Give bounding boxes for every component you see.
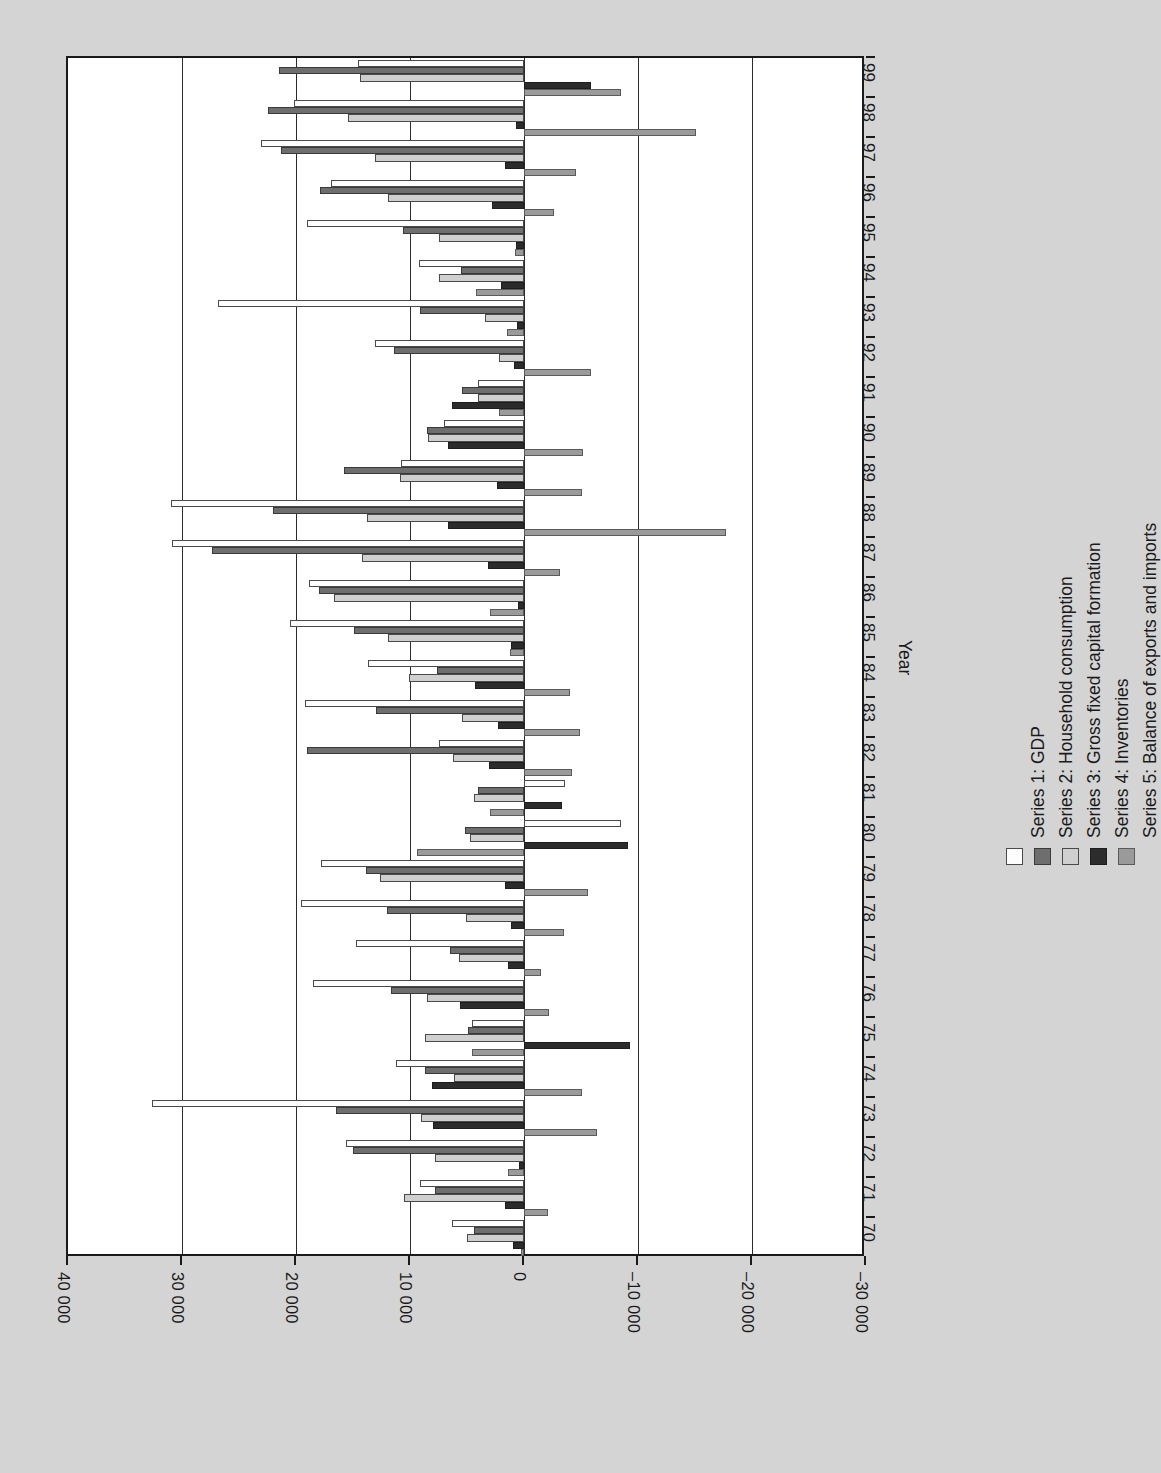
category-tick [866, 456, 875, 458]
bar-5-97 [524, 169, 576, 176]
bar-5-79 [524, 889, 588, 896]
bar-group [68, 1138, 862, 1178]
category-tick-label: 79 [858, 863, 878, 882]
bar-3-77 [459, 954, 524, 961]
bar-group [68, 538, 862, 578]
bar-1-87 [172, 540, 524, 547]
bar-2-88 [273, 507, 524, 514]
bar-3-74 [454, 1074, 524, 1081]
bar-2-77 [450, 947, 524, 954]
bar-4-83 [498, 722, 524, 729]
bar-5-80 [417, 849, 524, 856]
value-tick [750, 1256, 752, 1265]
bar-4-95 [516, 242, 524, 249]
bar-3-72 [435, 1154, 524, 1161]
legend-swatch-icon [1062, 848, 1079, 865]
legend-swatch-icon [1006, 848, 1023, 865]
bar-4-89 [497, 482, 524, 489]
bar-3-86 [334, 594, 524, 601]
category-tick [866, 416, 875, 418]
category-tick [866, 96, 875, 98]
bar-1-77 [356, 940, 524, 947]
legend-label: Series 4: Inventories [1112, 678, 1133, 838]
bar-3-90 [428, 434, 524, 441]
bar-1-84 [368, 660, 524, 667]
bar-4-99 [524, 82, 591, 89]
value-tick [408, 1256, 410, 1265]
bar-3-98 [348, 114, 524, 121]
bar-1-82 [439, 740, 525, 747]
bar-5-98 [524, 129, 696, 136]
category-tick [866, 896, 875, 898]
value-tick-label: 10 000 [396, 1272, 415, 1402]
bar-1-76 [313, 980, 524, 987]
category-tick [866, 576, 875, 578]
bar-5-75 [472, 1049, 524, 1056]
category-tick-label: 83 [858, 703, 878, 722]
bar-2-74 [425, 1067, 524, 1074]
bar-3-83 [462, 714, 524, 721]
category-tick-label: 98 [858, 103, 878, 122]
category-tick [866, 136, 875, 138]
bar-2-71 [435, 1187, 524, 1194]
bar-2-81 [478, 787, 524, 794]
bar-4-81 [524, 802, 562, 809]
bar-3-99 [360, 74, 524, 81]
plot-area [66, 56, 864, 1256]
category-tick [866, 256, 875, 258]
bar-2-97 [281, 147, 524, 154]
bar-4-85 [511, 642, 524, 649]
legend-label: Series 1: GDP [1028, 726, 1049, 838]
bar-4-70 [513, 1242, 524, 1249]
category-tick [866, 56, 875, 58]
bar-1-80 [524, 820, 621, 827]
bar-3-78 [466, 914, 524, 921]
bar-4-94 [501, 282, 524, 289]
bar-1-95 [307, 220, 524, 227]
category-tick-label: 95 [858, 223, 878, 242]
bar-group [68, 298, 862, 338]
value-tick-label: 20 000 [282, 1272, 301, 1402]
bar-3-81 [474, 794, 524, 801]
bar-group [68, 1058, 862, 1098]
bar-5-86 [490, 609, 524, 616]
bar-3-93 [485, 314, 524, 321]
bar-2-96 [320, 187, 524, 194]
bar-group [68, 1218, 862, 1258]
category-tick-label: 74 [858, 1063, 878, 1082]
bar-4-71 [505, 1202, 524, 1209]
bar-2-89 [344, 467, 524, 474]
category-tick [866, 176, 875, 178]
bar-1-88 [171, 500, 524, 507]
category-tick [866, 296, 875, 298]
bar-group [68, 1018, 862, 1058]
bar-2-91 [462, 387, 524, 394]
bar-2-90 [427, 427, 524, 434]
bar-4-75 [524, 1042, 630, 1049]
category-tick-label: 72 [858, 1143, 878, 1162]
category-tick-label: 92 [858, 343, 878, 362]
bar-2-87 [212, 547, 524, 554]
bar-2-70 [474, 1227, 524, 1234]
bar-5-96 [524, 209, 554, 216]
bar-3-97 [375, 154, 524, 161]
bar-group [68, 618, 862, 658]
bar-5-88 [524, 529, 726, 536]
bar-4-97 [505, 162, 524, 169]
category-tick-label: 80 [858, 823, 878, 842]
bar-1-94 [419, 260, 524, 267]
bar-4-73 [433, 1122, 524, 1129]
bar-4-96 [492, 202, 524, 209]
bar-4-79 [505, 882, 524, 889]
bar-3-95 [439, 234, 525, 241]
bar-3-85 [388, 634, 524, 641]
category-tick-label: 87 [858, 543, 878, 562]
bar-5-70 [521, 1249, 524, 1256]
bar-4-80 [524, 842, 628, 849]
bar-3-88 [367, 514, 524, 521]
category-tick [866, 496, 875, 498]
bar-1-75 [472, 1020, 524, 1027]
bar-1-90 [444, 420, 524, 427]
bar-2-84 [437, 667, 524, 674]
bar-1-91 [478, 380, 524, 387]
